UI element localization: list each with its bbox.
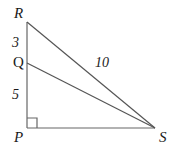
measure-label-QP: 5 (12, 88, 19, 102)
right-angle-marker (27, 118, 37, 128)
vertex-label-R: R (14, 6, 23, 21)
figure-canvas (0, 0, 177, 149)
vertex-label-S: S (159, 130, 167, 145)
measure-label-RQ: 3 (12, 36, 19, 50)
segment-QS (27, 63, 155, 128)
segment-RS (27, 22, 155, 128)
vertex-label-P: P (14, 130, 23, 145)
geometry-figure: R Q P S 3 5 10 (0, 0, 177, 149)
vertex-label-Q: Q (13, 55, 24, 70)
measure-label-RS: 10 (95, 56, 109, 70)
